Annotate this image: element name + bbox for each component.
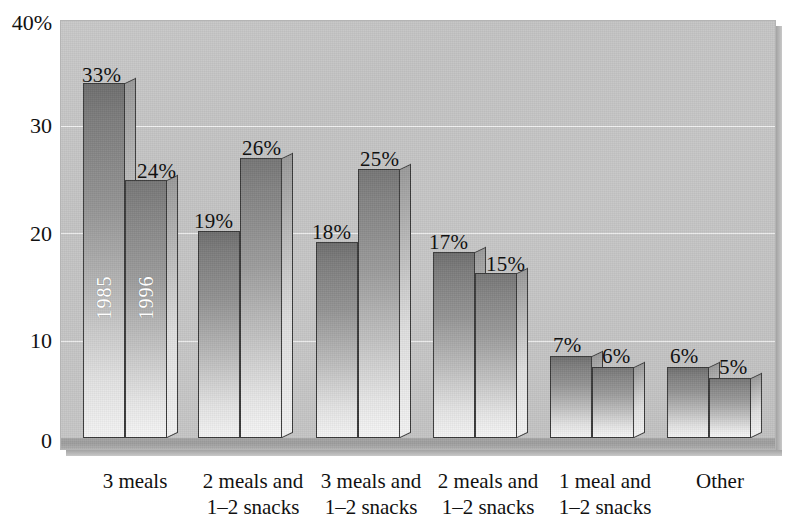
bar-front-face bbox=[358, 169, 400, 438]
bar-1996-group-4 bbox=[475, 273, 517, 438]
gridline-30 bbox=[61, 126, 775, 127]
bar-front-face bbox=[475, 273, 517, 438]
bar-side-face bbox=[634, 362, 645, 438]
x-tick-line-1: Other bbox=[645, 468, 791, 494]
bar-side-face bbox=[400, 164, 411, 438]
bar-value-1996-group-4: 15% bbox=[486, 252, 525, 277]
series-label-1996: 1996 bbox=[135, 275, 158, 321]
bar-front-face bbox=[240, 158, 282, 438]
bar-chart: 40% 30 20 10 0 33% 24% 1985 1996 bbox=[0, 0, 791, 522]
bar-value-1996-group-6: 5% bbox=[719, 355, 747, 380]
bar-side-face bbox=[167, 175, 178, 438]
plot-panel-shadow-right bbox=[776, 26, 782, 456]
bar-1996-group-3 bbox=[358, 169, 400, 438]
bar-value-1985-group-1: 33% bbox=[82, 63, 121, 88]
bar-1985-group-5 bbox=[550, 356, 592, 438]
bar-side-face bbox=[517, 268, 528, 438]
x-tick-line-2: 1–2 snacks bbox=[530, 494, 680, 520]
bar-front-face bbox=[592, 367, 634, 438]
bar-1996-group-6 bbox=[709, 378, 751, 438]
bar-1985-group-2 bbox=[198, 231, 240, 438]
bar-front-face bbox=[709, 378, 751, 438]
bar-side-face bbox=[751, 373, 762, 438]
bar-value-1996-group-2: 26% bbox=[242, 136, 281, 161]
bar-value-1996-group-5: 6% bbox=[602, 344, 630, 369]
plot-panel-shadow-bottom bbox=[66, 450, 782, 456]
bar-front-face bbox=[667, 367, 709, 438]
bar-value-1996-group-3: 25% bbox=[360, 147, 399, 172]
bar-value-1985-group-4: 17% bbox=[429, 230, 468, 255]
bar-value-1985-group-3: 18% bbox=[312, 220, 351, 245]
bar-value-1996-group-1: 24% bbox=[137, 159, 176, 184]
bar-value-1985-group-2: 19% bbox=[194, 209, 233, 234]
bar-1985-group-6 bbox=[667, 367, 709, 438]
bar-1985-group-3 bbox=[316, 242, 358, 438]
y-tick-label-0: 0 bbox=[0, 428, 52, 454]
bar-1985-group-4 bbox=[433, 252, 475, 438]
bar-side-face bbox=[282, 153, 293, 438]
bar-front-face bbox=[550, 356, 592, 438]
bar-front-face bbox=[316, 242, 358, 438]
chart-floor bbox=[61, 438, 775, 449]
bar-front-face bbox=[83, 83, 125, 438]
bar-1996-group-5 bbox=[592, 367, 634, 438]
bar-value-1985-group-5: 7% bbox=[553, 333, 581, 358]
bar-front-face bbox=[433, 252, 475, 438]
bar-value-1985-group-6: 6% bbox=[670, 344, 698, 369]
bar-1985-group-1 bbox=[83, 83, 125, 438]
x-tick-group-6: Other bbox=[645, 468, 791, 494]
series-label-1985: 1985 bbox=[93, 275, 116, 321]
y-tick-label-30: 30 bbox=[0, 113, 52, 139]
bar-front-face bbox=[198, 231, 240, 438]
plot-area: 33% 24% 1985 1996 19% 26% 18% 25% bbox=[60, 20, 776, 450]
bar-1996-group-2 bbox=[240, 158, 282, 438]
y-tick-label-40: 40% bbox=[0, 10, 52, 36]
y-tick-label-20: 20 bbox=[0, 221, 52, 247]
y-tick-label-10: 10 bbox=[0, 328, 52, 354]
